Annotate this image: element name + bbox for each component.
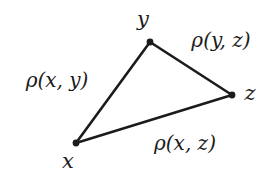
edge-label-rho-x-z: ρ(x, z) — [154, 133, 216, 153]
triangle-inequality-diagram: x y z ρ(x, y) ρ(y, z) ρ(x, z) — [0, 0, 278, 175]
vertex-dot-z — [229, 92, 236, 99]
vertex-label-x: x — [62, 151, 74, 172]
vertex-label-z: z — [244, 83, 255, 104]
vertex-label-y: y — [137, 9, 149, 30]
edge-label-rho-y-z: ρ(y, z) — [191, 30, 250, 50]
vertex-dot-x — [73, 140, 80, 147]
vertex-dot-y — [147, 39, 154, 46]
triangle-edges — [76, 42, 232, 143]
edge-x-y — [76, 42, 150, 143]
edge-label-rho-x-y: ρ(x, y) — [26, 70, 89, 90]
